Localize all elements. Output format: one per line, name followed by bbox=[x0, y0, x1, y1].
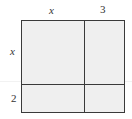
vertical-divider bbox=[84, 21, 85, 112]
horizontal-divider bbox=[22, 84, 124, 85]
side-label-2: 2 bbox=[11, 93, 17, 104]
top-label-x: x bbox=[49, 5, 54, 16]
side-label-x: x bbox=[10, 46, 15, 57]
area-model-box bbox=[21, 20, 125, 113]
top-label-3: 3 bbox=[100, 4, 106, 15]
